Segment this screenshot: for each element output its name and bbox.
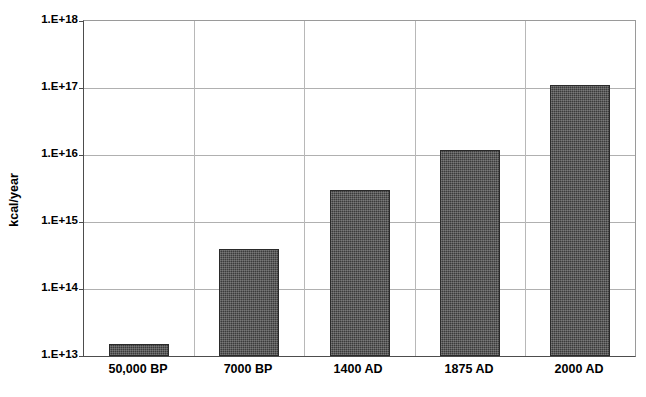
x-axis-tick-label: 50,000 BP — [83, 362, 193, 376]
bar-chart-figure: kcal/year 1.E+181.E+171.E+161.E+151.E+14… — [0, 0, 646, 397]
y-axis-tick-label: 1.E+17 — [22, 81, 78, 92]
gridline-vertical — [304, 21, 305, 356]
x-axis-tick-label: 2000 AD — [524, 362, 634, 376]
bar — [550, 85, 610, 356]
y-axis-tick-label: 1.E+15 — [22, 215, 78, 226]
y-axis-tick-label: 1.E+16 — [22, 148, 78, 159]
gridline-vertical — [525, 21, 526, 356]
y-axis-tick — [79, 222, 84, 223]
x-axis-tick-label: 1875 AD — [414, 362, 524, 376]
bar — [330, 190, 390, 356]
gridline-vertical — [194, 21, 195, 356]
x-axis-tick-label: 7000 BP — [193, 362, 303, 376]
y-axis-tick — [79, 356, 84, 357]
x-axis-tick-labels: 50,000 BP7000 BP1400 AD1875 AD2000 AD — [83, 362, 634, 386]
bar — [440, 150, 500, 356]
y-axis-tick-label: 1.E+14 — [22, 282, 78, 293]
plot-area — [83, 20, 636, 357]
y-axis-tick — [79, 21, 84, 22]
y-axis-tick-labels: 1.E+181.E+171.E+161.E+151.E+141.E+13 — [24, 0, 82, 397]
y-axis-tick — [79, 88, 84, 89]
y-axis-tick-label: 1.E+13 — [22, 349, 78, 360]
bar — [109, 344, 169, 356]
bar — [219, 249, 279, 356]
y-axis-tick — [79, 155, 84, 156]
gridline-vertical — [415, 21, 416, 356]
plot-inner — [84, 21, 635, 356]
y-axis-tick-label: 1.E+18 — [22, 14, 78, 25]
y-axis-tick — [79, 289, 84, 290]
x-axis-tick-label: 1400 AD — [303, 362, 413, 376]
y-axis-title-text: kcal/year — [7, 173, 21, 227]
